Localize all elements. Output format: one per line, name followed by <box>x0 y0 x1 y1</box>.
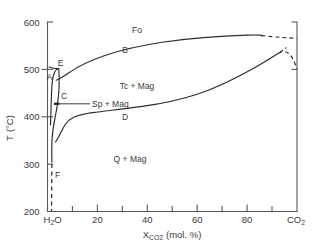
x-tick-labels: H2O 20 40 60 80 CO2 <box>44 214 306 226</box>
curve-d-dashed-tail <box>279 52 298 70</box>
curve-d <box>56 53 279 142</box>
region-label-q-mag: Q + Mag <box>114 154 147 164</box>
x-axis-title-sub: CO <box>149 234 159 241</box>
y-axis-title: T(°C) <box>4 115 15 141</box>
axes-group <box>48 22 298 212</box>
point-label-d: D <box>122 112 128 122</box>
y-tick-label-200: 200 <box>24 206 40 217</box>
y-tick-label-400: 400 <box>24 111 40 122</box>
phase-diagram-plot: 600 500 400 300 200 H2O 20 40 60 80 CO2 … <box>0 0 321 248</box>
curve-c-branch <box>52 69 59 163</box>
x-axis-title-sub2: 2 <box>159 234 163 241</box>
x-tick-label-h2o-rest: O <box>54 214 61 225</box>
point-label-f: F <box>55 170 60 180</box>
region-label-fo: Fo <box>132 25 142 35</box>
point-label-c: C <box>61 91 67 101</box>
x-tick-label-80: 80 <box>242 214 253 225</box>
x-axis-title: XCO2(mol. %) <box>143 229 202 241</box>
phase-diagram-figure: 600 500 400 300 200 H2O 20 40 60 80 CO2 … <box>0 0 321 248</box>
curve-b-dashed-tail <box>262 36 297 39</box>
curves-group <box>49 35 297 211</box>
point-label-a: A <box>47 72 53 82</box>
point-label-b: B <box>122 45 128 55</box>
region-label-tc-mag: Tc + Mag <box>120 81 155 91</box>
y-axis-title-symbol: T <box>4 135 15 141</box>
y-tick-label-300: 300 <box>24 159 40 170</box>
curve-b <box>56 35 262 80</box>
x-axis-title-rest: (mol. %) <box>166 229 201 240</box>
x-tick-label-20: 20 <box>92 214 103 225</box>
x-tick-label-co2-sub: 2 <box>301 219 305 226</box>
y-tick-label-600: 600 <box>24 17 40 28</box>
x-tick-label-60: 60 <box>192 214 203 225</box>
x-tick-label-40: 40 <box>142 214 153 225</box>
x-tick-label-co2-main: CO <box>287 214 301 225</box>
region-label-sp-mag: Sp + Mag <box>92 99 129 109</box>
point-label-e: E <box>58 58 64 68</box>
x-ticks <box>48 205 273 212</box>
y-axis-title-unit: (°C) <box>4 115 15 132</box>
x-tick-label-co2: CO2 <box>287 214 305 226</box>
y-tick-labels: 600 500 400 300 200 <box>24 17 40 218</box>
y-tick-label-500: 500 <box>24 64 40 75</box>
x-tick-label-h2o: H2O <box>44 214 62 226</box>
